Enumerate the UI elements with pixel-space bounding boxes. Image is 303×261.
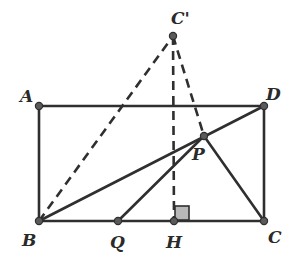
label-C: C (268, 227, 282, 247)
right-angle-marker (175, 206, 189, 220)
point-C-prime (169, 32, 176, 39)
dashed-segment-BC-prime (39, 36, 173, 221)
point-Q (114, 217, 121, 224)
point-H (170, 217, 177, 224)
point-B (35, 217, 42, 224)
point-P (200, 132, 207, 139)
label-H: H (165, 232, 183, 252)
label-B: B (21, 230, 36, 250)
dashed-segment-C-prime-P (173, 36, 204, 136)
label-P: P (191, 144, 206, 164)
label-D: D (265, 84, 281, 104)
point-A (35, 102, 42, 109)
segment-BD (39, 106, 264, 221)
dashed-segment-C-prime-H (173, 36, 174, 221)
geometry-diagram: C' A D P B Q H C (0, 0, 303, 261)
label-A: A (18, 86, 33, 106)
label-C-prime: C' (171, 8, 190, 28)
point-C (260, 217, 267, 224)
segment-PC (204, 136, 264, 221)
label-Q: Q (110, 232, 125, 252)
